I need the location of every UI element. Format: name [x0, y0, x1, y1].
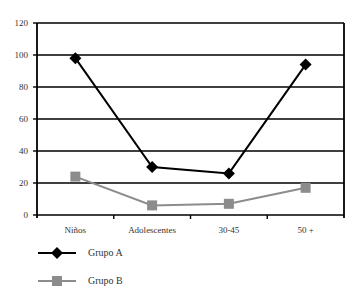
- y-tick-label: 0: [24, 210, 29, 220]
- data-point-square: [224, 199, 234, 209]
- data-point-square: [301, 183, 311, 193]
- data-point-diamond: [69, 52, 81, 64]
- legend-label-grupo-b: Grupo B: [88, 275, 123, 286]
- y-tick-label: 120: [15, 18, 29, 28]
- diamond-marker-icon: [38, 246, 78, 260]
- legend-item-grupo-a: [38, 246, 78, 260]
- x-category-label: 50 +: [297, 225, 313, 235]
- y-tick-label: 20: [19, 178, 29, 188]
- series-grupo-a: [69, 52, 311, 179]
- x-category-label: 30-45: [218, 225, 239, 235]
- line-chart: 020406080100120 NiñosAdolescentes30-4550…: [0, 0, 361, 240]
- y-tick-label: 60: [19, 114, 29, 124]
- series-grupo-b: [70, 172, 310, 211]
- y-tick-label: 80: [19, 82, 29, 92]
- square-marker-icon: [38, 274, 78, 288]
- legend: Grupo A Grupo B: [0, 240, 200, 300]
- x-category-label: Niños: [65, 225, 87, 235]
- y-axis-ticks: 020406080100120: [15, 18, 38, 220]
- legend-item-grupo-b: [38, 274, 78, 288]
- y-tick-label: 40: [19, 146, 29, 156]
- series-lines: [69, 52, 311, 210]
- legend-label-grupo-a: Grupo A: [88, 247, 123, 258]
- gridlines: [37, 23, 344, 215]
- data-point-diamond: [146, 161, 158, 173]
- data-point-square: [147, 200, 157, 210]
- data-point-diamond: [223, 167, 235, 179]
- data-point-diamond: [300, 59, 312, 71]
- y-tick-label: 100: [15, 50, 29, 60]
- data-point-square: [70, 172, 80, 182]
- x-category-label: Adolescentes: [128, 225, 176, 235]
- x-axis-ticks: NiñosAdolescentes30-4550 +: [65, 215, 314, 235]
